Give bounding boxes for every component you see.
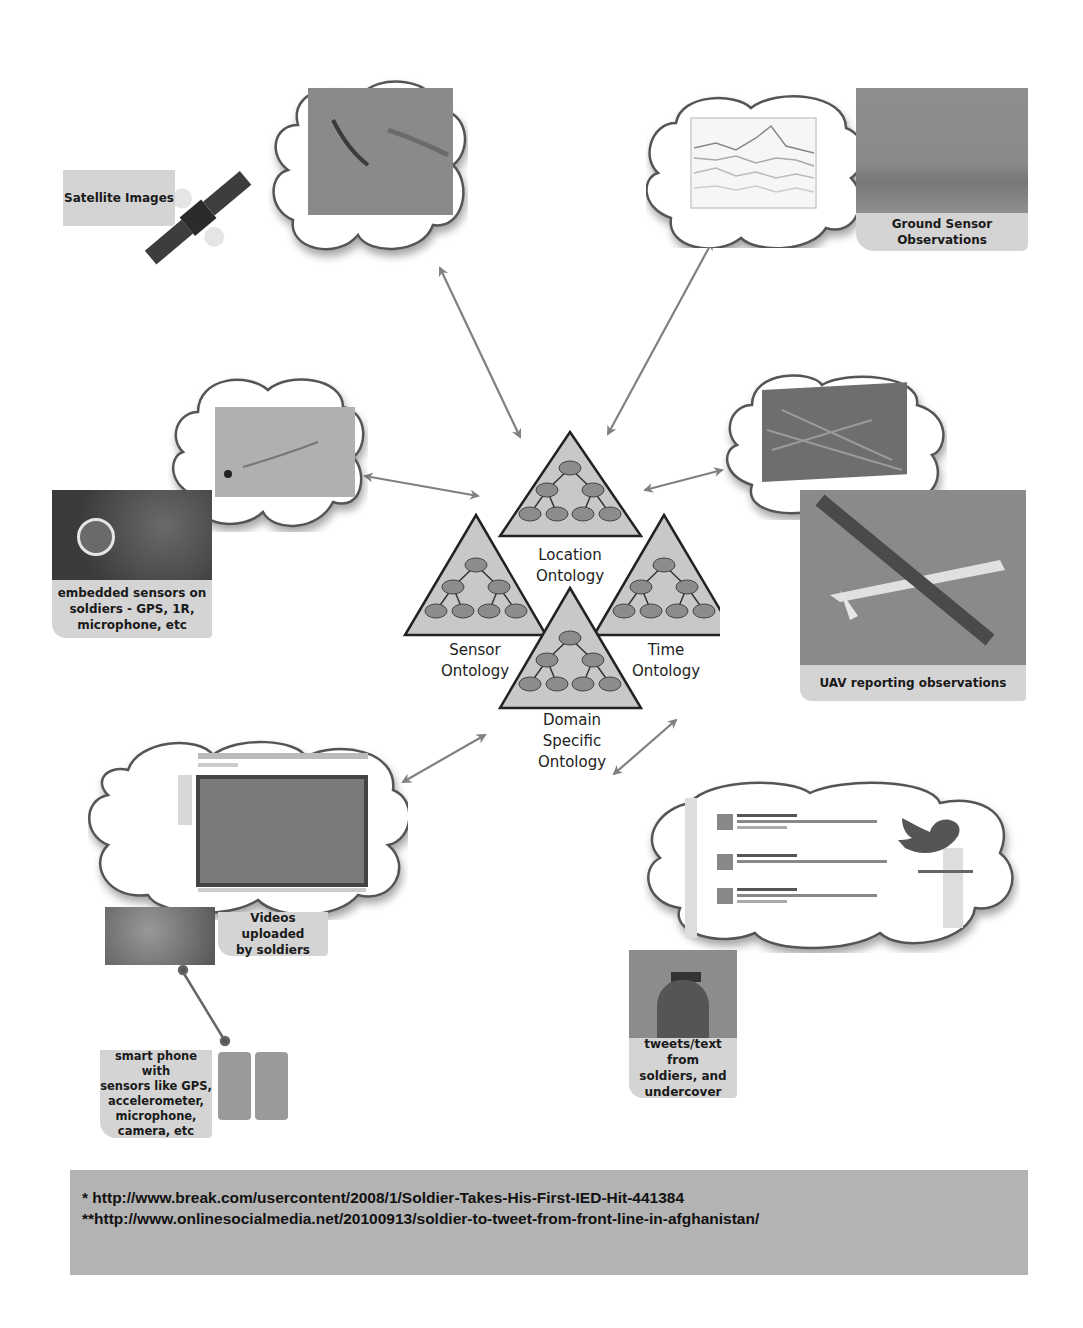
tweets-thought-cloud — [640, 778, 1020, 953]
satellite-terrain-image — [308, 88, 453, 215]
sensor-line-chart-thumbnail — [691, 118, 816, 208]
satellite-thought-cloud — [268, 70, 468, 270]
arrow-ground-location — [608, 242, 712, 434]
videos-uploaded-label: Videos uploaded by soldiers — [218, 912, 328, 956]
reference-link-1[interactable]: * http://www.break.com/usercontent/2008/… — [82, 1189, 684, 1207]
satellite-images-label: Satellite Images — [63, 170, 175, 226]
undercover-soldier-photo — [629, 950, 737, 1038]
references-footer: * http://www.break.com/usercontent/2008/… — [70, 1170, 1028, 1275]
time-ontology-label: Time Ontology — [616, 640, 716, 682]
reference-link-2[interactable]: **http://www.onlinesocialmedia.net/20100… — [82, 1210, 759, 1228]
tweets-text-label: tweets/text from soldiers, and undercove… — [629, 1038, 737, 1098]
smartphone-sensors-label: smart phone with sensors like GPS, accel… — [100, 1050, 212, 1138]
video-page-header — [198, 753, 368, 759]
soldier-video-photo — [105, 907, 215, 965]
phone-video-link — [179, 966, 229, 1045]
sensor-highlight-circle — [77, 518, 115, 556]
video-player-frame — [198, 777, 366, 885]
ground-sensor-observations-label: Ground Sensor Observations — [856, 213, 1028, 251]
uav-drone-photo — [800, 490, 1026, 665]
gps-track-screenshot — [215, 407, 355, 497]
ground-sensor-photo — [856, 88, 1028, 213]
embedded-sensors-label: embedded sensors on soldiers - GPS, 1R, … — [52, 580, 212, 638]
smartphone-screens-image — [218, 1052, 288, 1120]
arrow-video-domain — [403, 735, 485, 782]
location-ontology-triangle — [500, 432, 641, 536]
arrow-satellite-location — [440, 268, 520, 437]
location-ontology-label: Location Ontology — [520, 545, 620, 587]
soldier-sensor-photo — [52, 490, 212, 580]
ground-sensor-thought-cloud — [646, 88, 871, 248]
drone-icon — [800, 490, 1026, 665]
videos-thought-cloud — [88, 735, 408, 920]
uav-reporting-label: UAV reporting observations — [800, 665, 1026, 701]
sensor-ontology-label: Sensor Ontology — [425, 640, 525, 682]
domain-ontology-label: Domain Specific Ontology — [517, 710, 627, 773]
